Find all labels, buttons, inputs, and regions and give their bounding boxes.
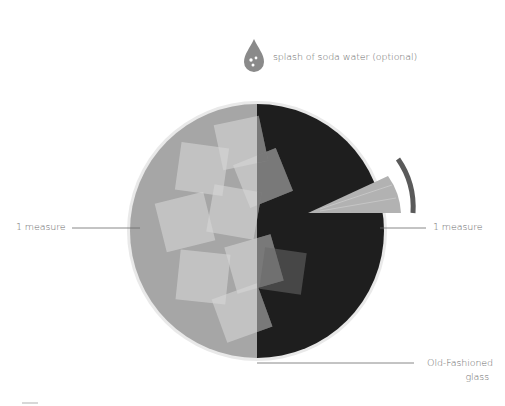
soda-water-label: splash of soda water (optional) bbox=[273, 51, 417, 62]
left-measure-label: 1 measure bbox=[16, 221, 66, 232]
right-spirit-fill bbox=[257, 95, 397, 375]
ice-cube-icon bbox=[206, 184, 262, 240]
cocktail-diagram bbox=[0, 0, 505, 406]
glass-label-line1: Old-Fashioned bbox=[427, 357, 489, 368]
glass-label-line2: glass bbox=[427, 371, 489, 382]
footer-mark bbox=[22, 402, 38, 404]
right-measure-label: 1 measure bbox=[433, 221, 483, 232]
water-drop-icon bbox=[244, 39, 264, 72]
glass-contents bbox=[120, 95, 397, 375]
